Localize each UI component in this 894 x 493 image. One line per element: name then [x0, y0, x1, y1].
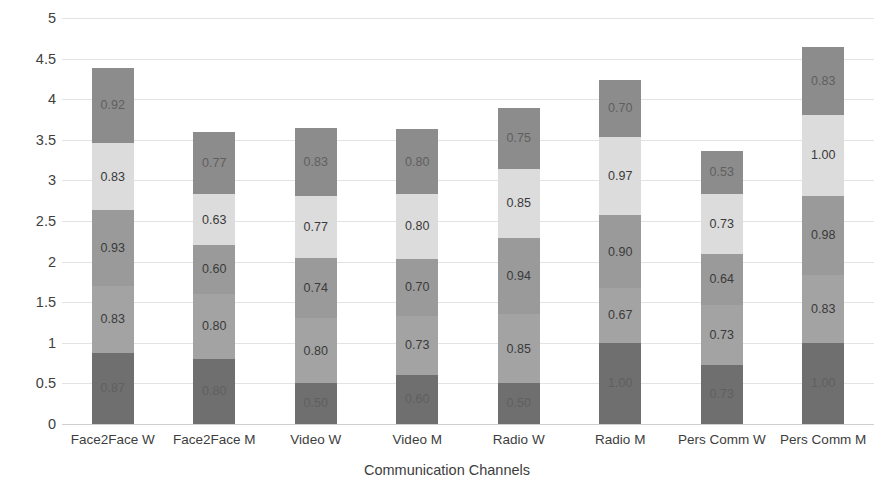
bar-segment-value: 0.60: [405, 393, 429, 406]
bar-segment-value: 0.73: [710, 218, 734, 231]
stacked-bar[interactable]: 0.800.800.700.730.60: [396, 129, 438, 424]
bar-segment[interactable]: 0.92: [92, 68, 134, 143]
bar-segment[interactable]: 0.73: [396, 316, 438, 375]
y-tick-label: 4.5: [4, 51, 56, 67]
bar-segment[interactable]: 0.85: [498, 169, 540, 238]
bar-group[interactable]: 0.831.000.980.831.00: [773, 18, 875, 424]
y-tick-label: 2: [4, 254, 56, 270]
bars-layer: 0.920.830.930.830.870.770.630.600.800.80…: [62, 18, 874, 424]
bar-segment-value: 0.83: [101, 171, 125, 184]
bar-group[interactable]: 0.750.850.940.850.50: [468, 18, 570, 424]
bar-segment[interactable]: 0.94: [498, 238, 540, 314]
bar-segment[interactable]: 0.83: [295, 128, 337, 195]
gridline: [62, 424, 874, 425]
bar-segment-value: 0.87: [101, 382, 125, 395]
bar-segment[interactable]: 0.93: [92, 210, 134, 286]
bar-segment-value: 0.50: [507, 397, 531, 410]
bar-segment[interactable]: 0.70: [599, 80, 641, 137]
bar-segment-value: 0.73: [405, 339, 429, 352]
stacked-bar[interactable]: 0.920.830.930.830.87: [92, 68, 134, 424]
bar-segment-value: 0.83: [304, 156, 328, 169]
bar-segment[interactable]: 0.50: [295, 383, 337, 424]
stacked-bar[interactable]: 0.750.850.940.850.50: [498, 108, 540, 424]
bar-segment-value: 0.74: [304, 282, 328, 295]
bar-segment[interactable]: 1.00: [802, 115, 844, 196]
bar-segment[interactable]: 1.00: [802, 343, 844, 424]
bar-segment[interactable]: 0.83: [802, 275, 844, 342]
stacked-bar[interactable]: 0.830.770.740.800.50: [295, 128, 337, 424]
bar-segment[interactable]: 0.63: [193, 194, 235, 245]
bar-segment[interactable]: 0.80: [193, 359, 235, 424]
bar-segment[interactable]: 0.87: [92, 353, 134, 424]
bar-segment-value: 0.80: [202, 320, 226, 333]
bar-segment-value: 1.00: [811, 149, 835, 162]
bar-group[interactable]: 0.800.800.700.730.60: [367, 18, 469, 424]
y-tick-label: 4: [4, 91, 56, 107]
bar-segment[interactable]: 0.83: [92, 143, 134, 210]
bar-group[interactable]: 0.530.730.640.730.73: [671, 18, 773, 424]
bar-segment[interactable]: 0.80: [295, 318, 337, 383]
bar-segment-value: 0.75: [507, 132, 531, 145]
bar-segment[interactable]: 0.50: [498, 383, 540, 424]
bar-segment-value: 0.94: [507, 270, 531, 283]
y-tick-label: 0: [4, 416, 56, 432]
bar-group[interactable]: 0.830.770.740.800.50: [265, 18, 367, 424]
y-axis-ticks: 00.511.522.533.544.55: [0, 18, 56, 424]
bar-segment-value: 0.80: [304, 345, 328, 358]
bar-segment[interactable]: 0.80: [193, 294, 235, 359]
bar-segment[interactable]: 0.60: [396, 375, 438, 424]
bar-segment[interactable]: 0.73: [701, 365, 743, 424]
bar-segment[interactable]: 0.97: [599, 137, 641, 216]
y-tick-label: 1.5: [4, 294, 56, 310]
bar-segment-value: 0.98: [811, 229, 835, 242]
bar-segment-value: 0.73: [710, 329, 734, 342]
plot-area: 0.920.830.930.830.870.770.630.600.800.80…: [62, 18, 874, 424]
bar-group[interactable]: 0.920.830.930.830.87: [62, 18, 164, 424]
bar-segment-value: 1.00: [608, 377, 632, 390]
bar-segment-value: 0.83: [101, 313, 125, 326]
bar-group[interactable]: 0.770.630.600.800.80: [164, 18, 266, 424]
bar-segment[interactable]: 1.00: [599, 343, 641, 424]
y-tick-label: 5: [4, 10, 56, 26]
bar-segment[interactable]: 0.60: [193, 245, 235, 294]
bar-segment[interactable]: 0.77: [193, 132, 235, 195]
bar-segment-value: 0.50: [304, 397, 328, 410]
bar-segment-value: 0.70: [608, 102, 632, 115]
stacked-bar[interactable]: 0.831.000.980.831.00: [802, 47, 844, 424]
bar-segment-value: 0.85: [507, 197, 531, 210]
bar-segment[interactable]: 0.70: [396, 259, 438, 316]
bar-group[interactable]: 0.700.970.900.671.00: [570, 18, 672, 424]
y-tick-label: 1: [4, 335, 56, 351]
bar-segment-value: 0.60: [202, 263, 226, 276]
stacked-bar[interactable]: 0.770.630.600.800.80: [193, 132, 235, 424]
bar-segment-value: 0.53: [710, 166, 734, 179]
bar-segment[interactable]: 0.67: [599, 288, 641, 342]
bar-segment-value: 0.77: [202, 157, 226, 170]
bar-segment[interactable]: 0.83: [802, 47, 844, 114]
y-tick-label: 0.5: [4, 375, 56, 391]
bar-segment[interactable]: 0.80: [396, 129, 438, 194]
bar-segment[interactable]: 0.83: [92, 286, 134, 353]
stacked-bar[interactable]: 0.530.730.640.730.73: [701, 151, 743, 424]
x-axis-title: Communication Channels: [0, 462, 894, 478]
stacked-bar[interactable]: 0.700.970.900.671.00: [599, 80, 641, 424]
bar-segment[interactable]: 0.77: [295, 196, 337, 259]
bar-segment[interactable]: 0.85: [498, 314, 540, 383]
bar-segment[interactable]: 0.75: [498, 108, 540, 169]
bar-segment[interactable]: 0.90: [599, 215, 641, 288]
bar-segment[interactable]: 0.80: [396, 194, 438, 259]
bar-segment-value: 0.97: [608, 170, 632, 183]
bar-segment-value: 0.63: [202, 214, 226, 227]
bar-segment[interactable]: 0.53: [701, 151, 743, 194]
bar-segment[interactable]: 0.73: [701, 194, 743, 253]
bar-segment-value: 0.67: [608, 309, 632, 322]
y-tick-label: 3: [4, 172, 56, 188]
bar-segment-value: 0.93: [101, 242, 125, 255]
bar-segment[interactable]: 0.73: [701, 305, 743, 364]
bar-segment[interactable]: 0.64: [701, 254, 743, 306]
bar-segment-value: 0.80: [202, 385, 226, 398]
bar-segment[interactable]: 0.74: [295, 258, 337, 318]
bar-segment[interactable]: 0.98: [802, 196, 844, 276]
stacked-bar-chart: Cumulative Score (weighted) 00.511.522.5…: [0, 0, 894, 493]
bar-segment-value: 0.77: [304, 221, 328, 234]
